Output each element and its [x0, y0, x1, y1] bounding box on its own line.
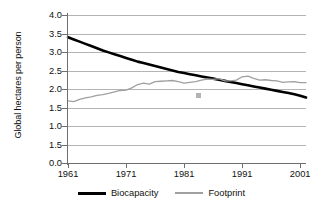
x-axis-tick-label: 1981: [164, 169, 204, 179]
series-line-biocapacity: [68, 37, 306, 97]
y-axis-tick-labels: 4.03.53.02.52.01.51.01.50.0: [26, 15, 62, 163]
y-axis-spine: [67, 13, 68, 165]
chart-legend: Biocapacity Footprint: [0, 188, 323, 198]
x-axis-tick-label: 1961: [48, 169, 88, 179]
legend-swatch-footprint: [175, 192, 203, 194]
y-axis-tick-label: 3.0: [26, 47, 62, 57]
series-lines: [68, 15, 306, 163]
y-axis-tick-label: 3.5: [26, 29, 62, 39]
x-axis-tick-label: 1991: [222, 169, 262, 179]
plot-area: [68, 15, 306, 163]
y-axis-title: Global hectares per person: [13, 5, 23, 165]
y-axis-tick-label: 4.0: [26, 10, 62, 20]
y-axis-tick-label: 1.5: [26, 103, 62, 113]
y-axis-tick-label: 1.5: [26, 140, 62, 150]
legend-swatch-biocapacity: [78, 192, 106, 195]
scan-artifact: [196, 93, 201, 98]
y-axis-tick-label: 2.0: [26, 84, 62, 94]
y-axis-tick-label: 1.0: [26, 121, 62, 131]
x-axis-tick-label: 1971: [106, 169, 146, 179]
legend-item-biocapacity: Biocapacity: [78, 188, 159, 198]
x-axis-spine: [68, 163, 306, 164]
y-axis-tick-label: 0.0: [26, 158, 62, 168]
y-axis-tick-label: 2.5: [26, 66, 62, 76]
x-axis-tick-label: 2001: [280, 169, 320, 179]
legend-label-footprint: Footprint: [208, 188, 245, 198]
legend-label-biocapacity: Biocapacity: [111, 188, 159, 198]
x-axis-tick-labels: 19611971198119912001: [68, 169, 306, 183]
legend-item-footprint: Footprint: [175, 188, 245, 198]
chart-figure: Global hectares per person 4.03.53.02.52…: [0, 0, 323, 215]
